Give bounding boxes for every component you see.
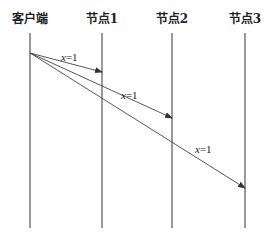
message-value: =1 — [126, 89, 138, 101]
participant-node3-label: 节点3 — [229, 12, 261, 26]
participant-node1-label: 节点1 — [86, 12, 118, 26]
message-arrow-node2 — [30, 53, 172, 118]
participant-node2-label: 节点2 — [156, 12, 188, 26]
diagram-canvas — [0, 0, 275, 247]
participant-client-label: 客户端 — [12, 12, 48, 26]
message-label-node2: x=1 — [121, 89, 138, 101]
message-label-node1: x=1 — [61, 51, 78, 63]
message-label-node3: x=1 — [195, 143, 212, 155]
message-value: =1 — [200, 143, 212, 155]
sequence-diagram: 客户端 节点1 节点2 节点3 x=1 x=1 x=1 — [0, 0, 275, 247]
message-arrow-node3 — [30, 53, 245, 188]
message-value: =1 — [66, 51, 78, 63]
